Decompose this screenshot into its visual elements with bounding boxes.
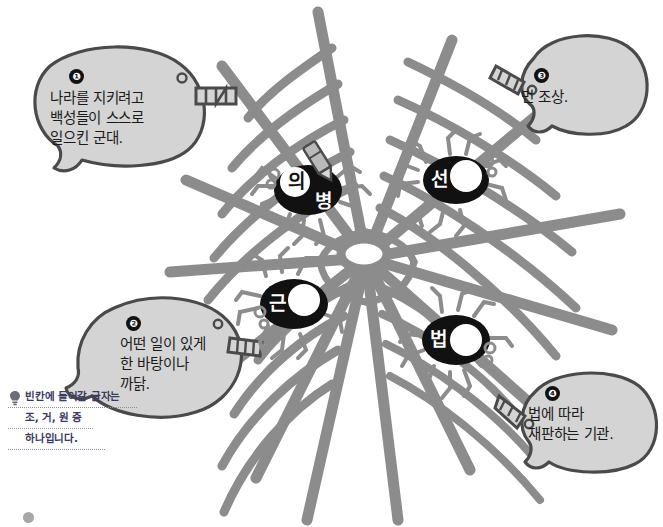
clue-text-4: 법에 따라 재판하는 기관.: [528, 404, 653, 444]
clue-number-3: ❸: [534, 68, 549, 83]
clue-bubble-3: ❸ 먼 조상.: [490, 22, 655, 137]
spider-seon[interactable]: 선: [398, 122, 528, 242]
clue-bubble-1: ❶ 나라를 지키려고 백성들이 스스로 일으킨 군대.: [20, 44, 220, 162]
bubble-tail-1: [196, 88, 236, 104]
spider-beop[interactable]: 법: [398, 282, 533, 402]
hint-note: 빈칸에 들어갈 글자는 조, 거, 원 중 하나입니다.: [8, 390, 158, 453]
answer-circle-blank: [288, 284, 320, 316]
answer-circle-blank: [450, 324, 482, 356]
clue-text-3: 먼 조상.: [521, 87, 631, 107]
hint-note-line-1: 빈칸에 들어갈 글자는: [8, 390, 137, 408]
clue-text-1: 나라를 지키려고 백성들이 스스로 일으킨 군대.: [50, 88, 202, 148]
clue-number-4: ❹: [545, 386, 560, 401]
clue-number-1: ❶: [69, 69, 84, 84]
spider-geun[interactable]: 근: [236, 246, 371, 366]
hint-note-line-2: 조, 거, 원 중: [8, 411, 93, 429]
clue-text-2: 어떤 일이 있게 한 바탕이나 까닭.: [120, 334, 250, 394]
worksheet-canvas: ❶ 나라를 지키려고 백성들이 스스로 일으킨 군대. ❸ 먼 조상. ❷ 어떤…: [0, 0, 663, 527]
bubble-tail-3: [490, 66, 524, 94]
spider-answer-uibyeong: 의: [286, 172, 306, 191]
spider-label-uibyeong: 병: [312, 192, 334, 211]
page-corner-dot: [23, 512, 34, 523]
spider-label-beop: 법: [426, 330, 450, 349]
spider-label-seon: 선: [428, 170, 450, 189]
answer-circle-blank: [450, 160, 482, 192]
hint-note-line-3: 하나입니다.: [8, 432, 105, 450]
spider-label-geun: 근: [266, 294, 288, 313]
clue-number-2: ❷: [126, 316, 141, 331]
spider-uibyeong[interactable]: 의 병: [250, 128, 380, 248]
